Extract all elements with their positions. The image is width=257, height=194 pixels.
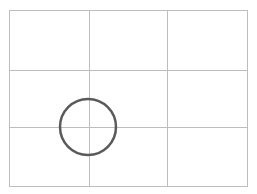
horizontal-grid-lines: [9, 71, 247, 128]
frame-border: [10, 11, 248, 187]
vertical-grid-lines: [90, 10, 168, 186]
rule-of-thirds-diagram: [0, 0, 257, 194]
